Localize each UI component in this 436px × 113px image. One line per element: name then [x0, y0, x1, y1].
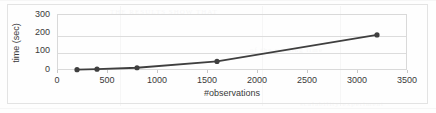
data-point — [214, 59, 219, 64]
data-point — [374, 32, 379, 37]
data-point — [74, 67, 79, 72]
data-series-layer — [0, 0, 436, 113]
data-point — [134, 65, 139, 70]
series-markers-runtime — [74, 32, 379, 72]
data-point — [94, 67, 99, 72]
series-line-runtime — [77, 35, 377, 70]
chart-figure: THE RESULTS SHOW THAT of the running tim… — [0, 0, 436, 113]
